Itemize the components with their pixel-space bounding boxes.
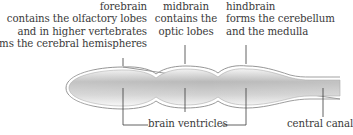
forebrain-desc-3: forms the cerebral hemispheres bbox=[0, 38, 147, 50]
central-canal-label: central canal bbox=[287, 118, 353, 130]
midbrain-desc-1: contains the bbox=[154, 13, 218, 25]
forebrain-label: forebrain contains the olfactory lobes a… bbox=[0, 1, 147, 51]
hindbrain-desc-2: and the medulla bbox=[226, 26, 335, 38]
forebrain-desc-1: contains the olfactory lobes bbox=[0, 13, 147, 25]
brain-ventricles-label: brain ventricles bbox=[148, 118, 222, 130]
midbrain-desc-2: optic lobes bbox=[154, 26, 218, 38]
midbrain-title: midbrain bbox=[154, 1, 218, 13]
forebrain-title: forebrain bbox=[0, 1, 147, 13]
midbrain-label: midbrain contains the optic lobes bbox=[154, 1, 218, 38]
hindbrain-desc-1: forms the cerebellum bbox=[226, 13, 335, 25]
forebrain-desc-2: and in higher vertebrates bbox=[0, 26, 147, 38]
hindbrain-title: hindbrain bbox=[226, 1, 335, 13]
hindbrain-label: hindbrain forms the cerebellum and the m… bbox=[226, 1, 335, 38]
